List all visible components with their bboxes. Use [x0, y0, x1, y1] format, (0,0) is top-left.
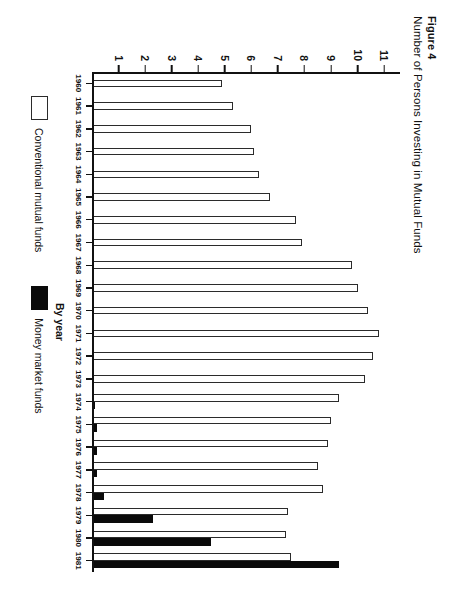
bar-conventional-1976	[92, 440, 328, 448]
category-tick-cell-1962: 1962	[74, 117, 92, 140]
category-tick-cell-1978: 1978	[74, 481, 92, 504]
legend-swatch-money-market-funds	[31, 286, 48, 310]
bar-money-market-1981	[92, 561, 339, 569]
bar-column-1974	[92, 390, 400, 413]
category-tick-1971	[86, 333, 92, 334]
bar-conventional-1975	[92, 417, 331, 425]
category-tick-label-1972: 1972	[74, 347, 83, 365]
bar-column-1979	[92, 504, 400, 527]
category-tick-1977	[86, 469, 92, 470]
bar-column-1976	[92, 436, 400, 459]
legend-item-conventional-mutual-funds: Conventional mutual funds	[31, 96, 48, 252]
category-tick-cell-1970: 1970	[74, 299, 92, 322]
bar-conventional-1972	[92, 352, 373, 360]
category-tick-cell-1966: 1966	[74, 208, 92, 231]
category-tick-cell-1981: 1981	[74, 549, 92, 572]
category-tick-label-1975: 1975	[74, 415, 83, 433]
category-tick-cell-1968: 1968	[74, 254, 92, 277]
bar-conventional-1973	[92, 375, 365, 383]
category-axis: 1960196119621963196419651966196719681969…	[46, 72, 92, 572]
category-tick-cell-1974: 1974	[74, 390, 92, 413]
category-tick-cell-1969: 1969	[74, 277, 92, 300]
category-tick-cell-1965: 1965	[74, 186, 92, 209]
category-tick-label-1978: 1978	[74, 484, 83, 502]
category-tick-label-1966: 1966	[74, 211, 83, 229]
category-tick-1969	[86, 287, 92, 288]
category-tick-label-1977: 1977	[74, 461, 83, 479]
bar-conventional-1974	[92, 394, 339, 402]
category-axis-ticks: 1960196119621963196419651966196719681969…	[74, 72, 92, 572]
figure-title-block: Figure 4 Number of Persons Investing in …	[411, 16, 438, 254]
value-axis-title: Number of shareholder accounts (in milli…	[92, 0, 400, 262]
bar-column-1975	[92, 413, 400, 436]
bar-conventional-1970	[92, 307, 368, 315]
bar-column-1971	[92, 322, 400, 345]
category-tick-1973	[86, 378, 92, 379]
legend-swatch-conventional-mutual-funds	[31, 96, 48, 120]
category-tick-cell-1973: 1973	[74, 368, 92, 391]
legend-label-money-market-funds: Money market funds	[34, 318, 46, 413]
category-tick-label-1963: 1963	[74, 143, 83, 161]
bar-conventional-1979	[92, 508, 288, 516]
bar-column-1980	[92, 527, 400, 550]
category-tick-label-1979: 1979	[74, 506, 83, 524]
category-tick-1968	[86, 265, 92, 266]
category-tick-1974	[86, 401, 92, 402]
category-tick-cell-1979: 1979	[74, 504, 92, 527]
category-tick-label-1974: 1974	[74, 393, 83, 411]
category-tick-label-1969: 1969	[74, 279, 83, 297]
bar-column-1973	[92, 368, 400, 391]
bar-column-1977	[92, 458, 400, 481]
bar-conventional-1977	[92, 462, 318, 470]
figure-number-label: Figure 4	[425, 16, 438, 254]
category-tick-label-1968: 1968	[74, 256, 83, 274]
bar-column-1972	[92, 345, 400, 368]
category-tick-1965	[86, 196, 92, 197]
bar-money-market-1980	[92, 538, 211, 546]
category-tick-cell-1971: 1971	[74, 322, 92, 345]
category-tick-cell-1963: 1963	[74, 140, 92, 163]
category-tick-cell-1977: 1977	[74, 458, 92, 481]
legend-label-conventional-mutual-funds: Conventional mutual funds	[34, 128, 46, 252]
category-tick-label-1967: 1967	[74, 234, 83, 252]
category-tick-cell-1960: 1960	[74, 72, 92, 95]
category-tick-1964	[86, 174, 92, 175]
bar-money-market-1979	[92, 515, 153, 523]
bar-column-1978	[92, 481, 400, 504]
bar-conventional-1968	[92, 261, 352, 269]
bar-money-market-1978	[92, 493, 104, 501]
bar-column-1970	[92, 299, 400, 322]
category-axis-title: By year	[54, 72, 66, 572]
category-tick-cell-1967: 1967	[74, 231, 92, 254]
category-tick-1978	[86, 492, 92, 493]
category-tick-1962	[86, 128, 92, 129]
category-tick-1975	[86, 424, 92, 425]
category-tick-cell-1972: 1972	[74, 345, 92, 368]
category-tick-1967	[86, 242, 92, 243]
bar-conventional-1969	[92, 284, 358, 292]
bar-conventional-1978	[92, 485, 323, 493]
category-tick-cell-1964: 1964	[74, 163, 92, 186]
category-tick-label-1980: 1980	[74, 529, 83, 547]
category-tick-label-1971: 1971	[74, 324, 83, 342]
category-tick-label-1964: 1964	[74, 165, 83, 183]
category-tick-1963	[86, 151, 92, 152]
category-tick-1976	[86, 446, 92, 447]
legend-item-money-market-funds: Money market funds	[31, 286, 48, 413]
bar-column-1969	[92, 277, 400, 300]
category-tick-cell-1980: 1980	[74, 527, 92, 550]
category-tick-1981	[86, 560, 92, 561]
figure-canvas: Figure 4 Number of Persons Investing in …	[0, 0, 452, 610]
category-tick-1970	[86, 310, 92, 311]
category-tick-label-1981: 1981	[74, 552, 83, 570]
category-tick-cell-1976: 1976	[74, 436, 92, 459]
bar-conventional-1980	[92, 531, 286, 539]
category-tick-1961	[86, 105, 92, 106]
page-title: Number of Persons Investing in Mutual Fu…	[411, 16, 425, 254]
category-tick-label-1976: 1976	[74, 438, 83, 456]
category-tick-1972	[86, 355, 92, 356]
category-tick-1960	[86, 83, 92, 84]
category-tick-1980	[86, 537, 92, 538]
category-tick-label-1962: 1962	[74, 120, 83, 138]
category-tick-cell-1961: 1961	[74, 95, 92, 118]
